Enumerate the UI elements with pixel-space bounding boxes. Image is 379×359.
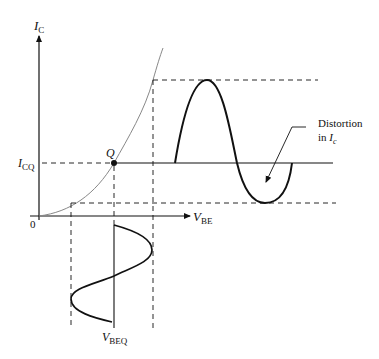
distortion-pointer-line bbox=[266, 127, 306, 182]
q-point-label: Q bbox=[106, 146, 115, 160]
input-vbe-waveform bbox=[71, 225, 152, 322]
origin-label: 0 bbox=[30, 218, 36, 230]
q-point-dot bbox=[111, 160, 117, 166]
transfer-curve bbox=[39, 48, 163, 216]
vbeq-label: VBEQ bbox=[102, 330, 128, 346]
y-axis-label: IC bbox=[33, 18, 44, 35]
x-axis-label: VBE bbox=[193, 209, 213, 226]
transfer-characteristic-diagram: IC VBE 0 ICQ Q VBEQ Distortion in Ic bbox=[0, 0, 379, 359]
output-ic-waveform bbox=[175, 80, 292, 203]
icq-label: ICQ bbox=[17, 156, 35, 172]
distortion-label-line1: Distortion bbox=[318, 117, 363, 129]
distortion-label-line2: in Ic bbox=[318, 131, 337, 146]
